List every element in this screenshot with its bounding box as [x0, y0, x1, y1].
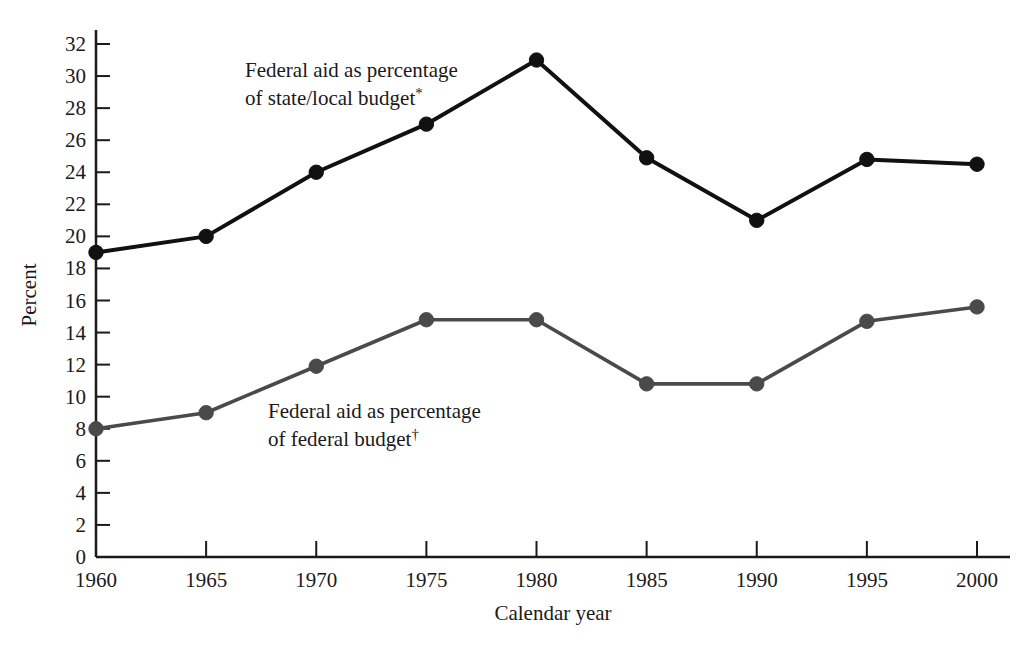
y-tick-label: 26	[65, 128, 86, 152]
y-tick-label: 12	[65, 353, 86, 377]
series-data-points	[89, 53, 984, 436]
data-point	[199, 229, 213, 243]
data-point	[89, 245, 103, 259]
data-point	[309, 359, 323, 373]
series-annotation-upper-line2-text: of state/local budget	[245, 86, 415, 110]
x-tick-label: 1975	[405, 568, 447, 592]
y-tick-label: 14	[65, 321, 87, 345]
series-lines	[96, 60, 977, 429]
data-point	[199, 406, 213, 420]
data-point	[309, 165, 323, 179]
y-axis-tick-labels: 02468101214161820222426283032	[65, 32, 87, 569]
data-point	[419, 313, 433, 327]
data-point	[529, 313, 543, 327]
data-point	[750, 213, 764, 227]
series-annotation-lower-line1: Federal aid as percentage	[268, 399, 481, 423]
data-point	[89, 422, 103, 436]
x-tick-label: 1960	[75, 568, 117, 592]
data-point	[750, 377, 764, 391]
x-tick-label: 1990	[736, 568, 778, 592]
series-annotation-lower: Federal aid as percentage of federal bud…	[268, 399, 481, 451]
y-tick-label: 22	[65, 192, 86, 216]
y-tick-label: 2	[76, 513, 87, 537]
series-annotation-lower-marker: †	[411, 426, 419, 442]
y-axis-title: Percent	[17, 263, 41, 326]
x-axis-tick-labels: 196019651970197519801985199019952000	[75, 568, 998, 592]
y-tick-label: 16	[65, 289, 86, 313]
y-tick-label: 32	[65, 32, 86, 56]
x-axis-title: Calendar year	[494, 601, 611, 625]
x-tick-label: 1970	[295, 568, 337, 592]
y-tick-label: 8	[76, 417, 87, 441]
data-point	[970, 157, 984, 171]
data-point	[860, 314, 874, 328]
y-tick-label: 30	[65, 64, 86, 88]
series-annotation-lower-line2-text: of federal budget	[268, 427, 412, 451]
data-point	[639, 151, 653, 165]
data-point	[529, 53, 543, 67]
y-axis-ticks	[96, 44, 110, 557]
x-tick-label: 2000	[956, 568, 998, 592]
y-tick-label: 20	[65, 224, 86, 248]
series-annotation-lower-line2: of federal budget†	[268, 426, 419, 451]
x-tick-label: 1985	[626, 568, 668, 592]
data-point	[970, 300, 984, 314]
x-axis-ticks	[96, 541, 977, 557]
x-tick-label: 1995	[846, 568, 888, 592]
data-point	[419, 117, 433, 131]
series-annotation-upper-line1: Federal aid as percentage	[245, 58, 458, 82]
series-annotation-upper: Federal aid as percentage of state/local…	[245, 58, 458, 110]
y-tick-label: 10	[65, 385, 86, 409]
x-tick-label: 1980	[516, 568, 558, 592]
y-tick-label: 6	[76, 449, 87, 473]
y-tick-label: 28	[65, 96, 86, 120]
x-tick-label: 1965	[185, 568, 227, 592]
y-tick-label: 0	[76, 545, 87, 569]
data-point	[639, 377, 653, 391]
y-tick-label: 4	[76, 481, 87, 505]
y-tick-label: 18	[65, 256, 86, 280]
series-annotation-upper-line2: of state/local budget*	[245, 85, 423, 110]
series-line-upper	[96, 60, 977, 252]
series-annotation-upper-marker: *	[415, 85, 423, 101]
line-chart: 02468101214161820222426283032 1960196519…	[0, 0, 1022, 647]
chart-container: 02468101214161820222426283032 1960196519…	[0, 0, 1022, 647]
data-point	[860, 152, 874, 166]
y-tick-label: 24	[65, 160, 87, 184]
